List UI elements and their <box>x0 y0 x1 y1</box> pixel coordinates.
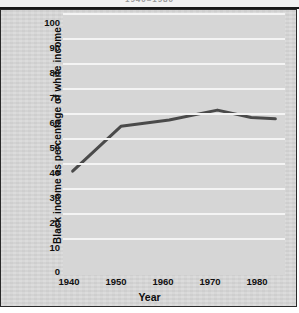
data-series-line <box>63 13 285 275</box>
gridline-70 <box>63 88 285 90</box>
gridline-60 <box>63 113 285 115</box>
x-tick-1980: 1980 <box>237 277 277 287</box>
y-axis-label: Black income as percentage of white inco… <box>52 21 63 251</box>
x-tick-1940: 1940 <box>49 277 89 287</box>
gridline-90 <box>63 38 285 40</box>
chart-figure: 1940–1980 100 90 80 70 60 50 40 30 20 10… <box>0 0 299 313</box>
gridline-30 <box>63 188 285 190</box>
gridline-40 <box>63 163 285 165</box>
gridline-50 <box>63 138 285 140</box>
gridline-80 <box>63 63 285 65</box>
x-axis-ticks: 1940 1950 1960 1970 1980 <box>0 277 299 291</box>
x-axis-label: Year <box>0 291 299 303</box>
y-axis-label-host: Black income as percentage of white inco… <box>28 0 44 290</box>
gridline-10 <box>63 238 285 240</box>
plot-area <box>63 13 285 275</box>
gridline-20 <box>63 213 285 215</box>
x-tick-1960: 1960 <box>143 277 183 287</box>
gridline-100 <box>63 13 285 15</box>
x-tick-1950: 1950 <box>96 277 136 287</box>
x-tick-1970: 1970 <box>190 277 230 287</box>
